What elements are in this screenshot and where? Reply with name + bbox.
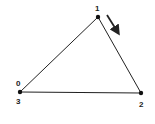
vertex-label-2: 2 (139, 100, 144, 109)
vertex-label-3: 3 (16, 97, 21, 106)
vertex-label-1: 1 (95, 4, 100, 13)
edge-1-2 (98, 17, 141, 93)
vertex-2 (139, 91, 143, 95)
vertex-1 (96, 15, 100, 19)
direction-arrow-icon (107, 15, 117, 31)
vertex-0 (18, 90, 22, 94)
vertex-label-0: 0 (16, 79, 21, 88)
edge-2-3 (20, 92, 141, 93)
triangle-diagram: 0 3 1 2 (0, 0, 155, 124)
edge-0-1 (20, 17, 98, 92)
